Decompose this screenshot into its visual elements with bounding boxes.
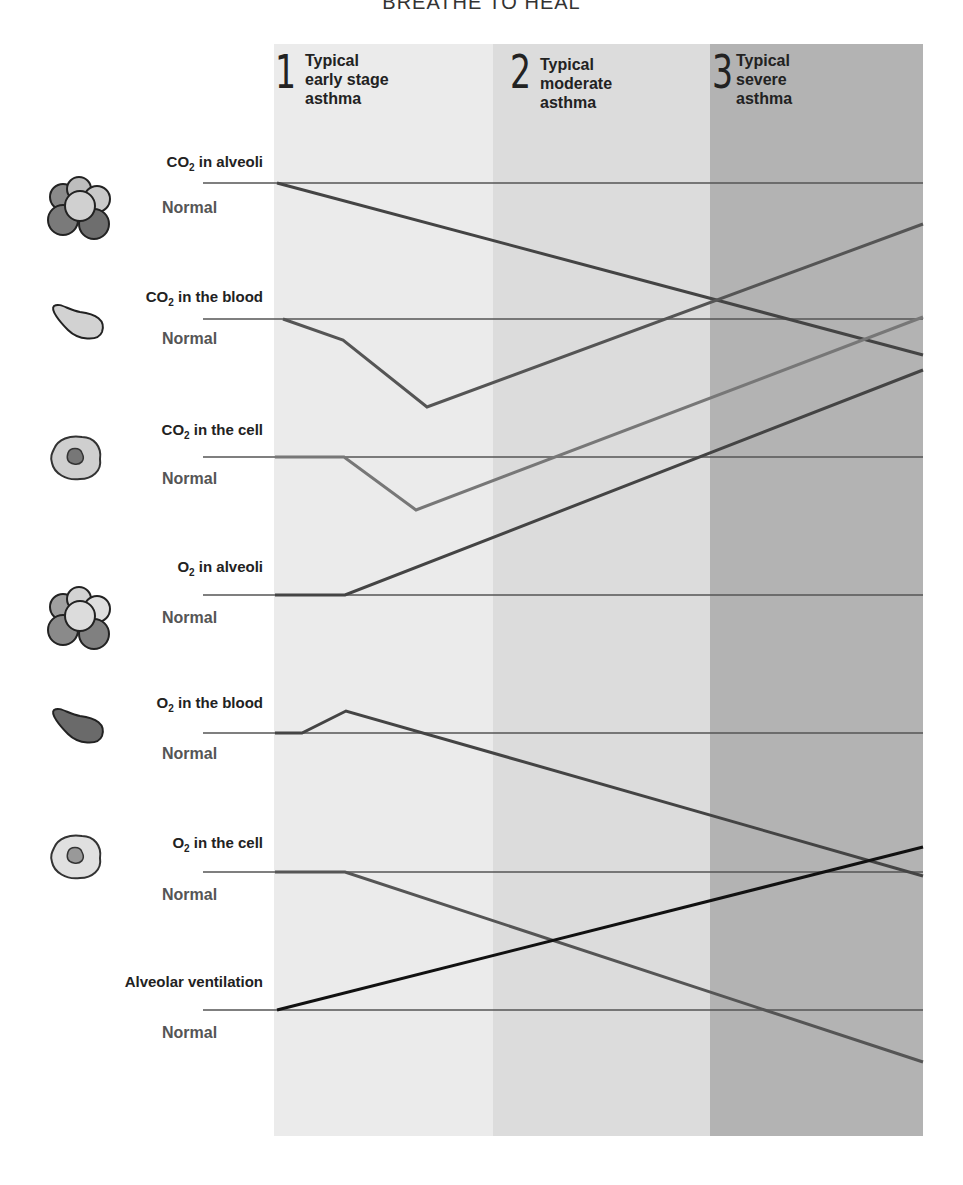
series-line-o2-in-alveoli (275, 370, 923, 595)
series-line-co2-in-alveoli (277, 183, 923, 355)
series-line-o2-in-the-cell (275, 872, 923, 1062)
series-line-co2-in-the-blood (283, 224, 923, 407)
series-line-co2-in-the-cell (275, 317, 923, 510)
series-line-o2-in-the-blood (275, 711, 923, 876)
chart-plot-area (0, 0, 963, 1185)
